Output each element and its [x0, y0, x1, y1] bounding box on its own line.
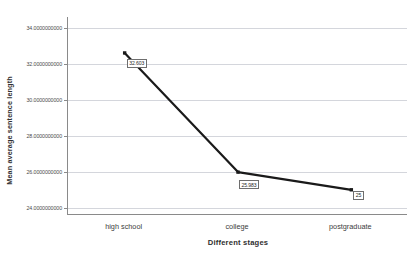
data-point-label: 25	[353, 191, 363, 200]
data-point-marker	[236, 170, 239, 173]
series-polyline	[125, 53, 352, 190]
line-chart: Mean average sentence length Different s…	[0, 0, 415, 261]
y-tick-label: 32.0000000000	[26, 61, 62, 67]
y-tick-label: 34.0000000000	[26, 25, 62, 31]
y-tick-label: 24.0000000000	[26, 205, 62, 211]
data-point-label: 25.983	[239, 180, 259, 189]
plot-frame	[67, 17, 407, 215]
y-axis-title: Mean average sentence length	[0, 0, 18, 261]
data-point-marker	[123, 51, 126, 54]
y-tick-label: 30.0000000000	[26, 97, 62, 103]
y-tick-label: 28.0000000000	[26, 133, 62, 139]
x-tick-label: high school	[105, 222, 142, 231]
x-tick-label: postgraduate	[329, 222, 372, 231]
x-tick-label: college	[225, 222, 248, 231]
data-point-label: 32.603	[127, 59, 147, 68]
x-axis-title: Different stages	[68, 238, 408, 247]
series-line	[68, 17, 408, 215]
y-tick-label: 26.0000000000	[26, 169, 62, 175]
